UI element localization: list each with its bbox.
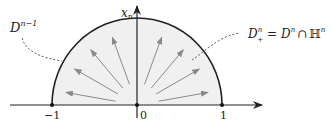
half-disk-diagram: −1 0 1 xn Dn−1 Dn+=Dn∩ℍn [0,0,332,124]
halfdisk-label: Dn+=Dn∩ℍn [247,26,326,44]
boundary-leader-line [22,38,62,61]
point-neg1 [50,103,54,107]
tick-label-0: 0 [140,109,147,122]
tick-label-1: 1 [220,109,227,122]
tick-label-neg1: −1 [44,109,60,122]
point-1 [220,103,224,107]
point-0 [135,103,139,107]
boundary-label: Dn−1 [9,19,37,35]
axis-label-xn: xn [121,6,133,21]
